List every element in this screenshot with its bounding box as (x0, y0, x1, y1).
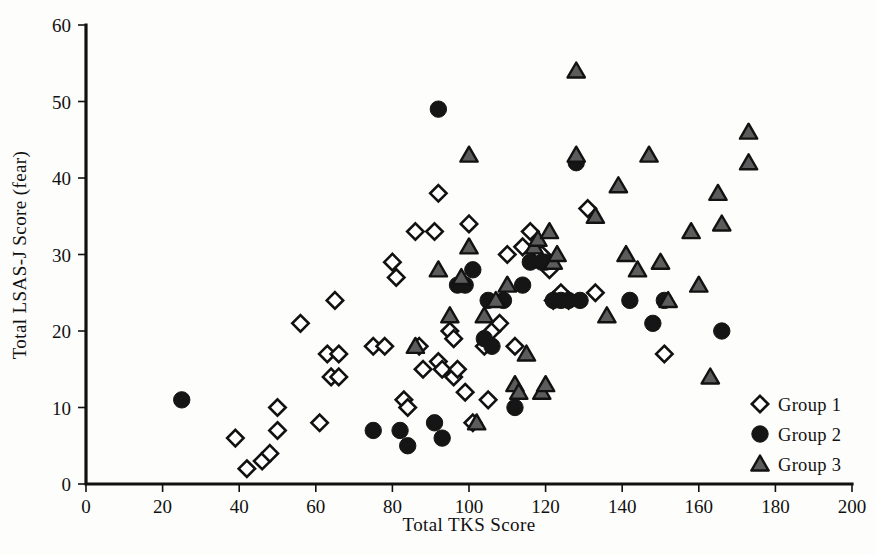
x-tick-label: 60 (306, 496, 325, 517)
scatter-plot-figure: 020406080100120140160180200 010203040506… (0, 0, 876, 555)
y-tick-label: 60 (52, 15, 71, 36)
data-point-group-3 (629, 261, 646, 276)
data-point-group-3 (617, 246, 634, 261)
data-point-group-2 (365, 422, 381, 438)
data-point-group-2 (645, 315, 661, 331)
data-point-group-1 (407, 223, 423, 239)
legend-marker-group-1 (752, 396, 768, 412)
data-point-group-1 (587, 285, 603, 301)
data-point-group-2 (400, 438, 416, 454)
y-tick-label: 10 (52, 398, 71, 419)
data-point-group-2 (434, 430, 450, 446)
data-point-group-1 (461, 216, 477, 232)
x-tick-label: 20 (153, 496, 172, 517)
legend-label-group-2: Group 2 (778, 425, 841, 445)
data-point-group-1 (331, 346, 347, 362)
y-tick-label: 30 (52, 245, 71, 266)
data-point-group-1 (499, 246, 515, 262)
x-tick-label: 80 (383, 496, 402, 517)
data-point-group-1 (426, 223, 442, 239)
data-point-group-3 (537, 376, 554, 391)
data-point-group-3 (610, 177, 627, 192)
data-point-group-2 (426, 415, 442, 431)
x-axis-title: Total TKS Score (402, 514, 535, 535)
data-point-group-3 (441, 307, 458, 322)
legend-marker-group-2 (752, 426, 768, 442)
data-point-group-1 (457, 384, 473, 400)
data-point-group-3 (568, 147, 585, 162)
data-point-group-3 (690, 277, 707, 292)
series-group-1 (227, 185, 672, 477)
data-point-group-1 (430, 185, 446, 201)
data-point-group-1 (377, 338, 393, 354)
data-point-group-3 (740, 154, 757, 169)
data-point-group-3 (541, 223, 558, 238)
data-point-group-1 (415, 361, 431, 377)
data-point-group-1 (292, 315, 308, 331)
data-point-group-3 (652, 254, 669, 269)
data-point-group-1 (227, 430, 243, 446)
data-point-group-3 (568, 63, 585, 78)
data-point-group-2 (514, 277, 530, 293)
data-point-group-2 (507, 399, 523, 415)
legend-label-group-1: Group 1 (778, 395, 841, 415)
data-point-group-3 (702, 369, 719, 384)
data-point-group-1 (327, 292, 343, 308)
data-point-group-1 (311, 415, 327, 431)
data-point-group-3 (460, 147, 477, 162)
y-tick-label: 50 (52, 92, 71, 113)
data-point-group-1 (507, 338, 523, 354)
data-point-group-3 (548, 246, 565, 261)
x-tick-label: 180 (761, 496, 790, 517)
data-point-group-2 (484, 338, 500, 354)
data-point-group-3 (640, 147, 657, 162)
data-point-group-1 (269, 422, 285, 438)
x-tick-label: 140 (608, 496, 637, 517)
y-tick-label: 0 (62, 474, 72, 495)
data-point-group-2 (430, 101, 446, 117)
data-point-group-2 (392, 422, 408, 438)
data-point-group-2 (622, 292, 638, 308)
x-tick-label: 200 (838, 496, 867, 517)
data-point-group-1 (480, 392, 496, 408)
data-point-group-3 (499, 277, 516, 292)
data-point-group-2 (174, 392, 190, 408)
x-tick-label: 0 (81, 496, 91, 517)
data-point-group-2 (714, 323, 730, 339)
x-tick-label: 40 (230, 496, 249, 517)
y-tick-label: 40 (52, 168, 71, 189)
data-point-group-1 (384, 254, 400, 270)
data-point-group-2 (465, 262, 481, 278)
data-point-group-3 (709, 185, 726, 200)
data-points (174, 63, 758, 477)
data-point-group-3 (713, 216, 730, 231)
y-tick-labels: 0102030405060 (52, 15, 71, 495)
data-point-group-3 (460, 238, 477, 253)
y-tick-label: 20 (52, 321, 71, 342)
data-point-group-1 (388, 269, 404, 285)
data-point-group-3 (598, 307, 615, 322)
data-point-group-2 (572, 292, 588, 308)
y-axis-title: Total LSAS-J Score (fear) (9, 151, 31, 360)
legend: Group 1Group 2Group 3 (751, 395, 841, 475)
data-point-group-3 (476, 307, 493, 322)
data-point-group-1 (239, 461, 255, 477)
data-point-group-1 (269, 399, 285, 415)
legend-marker-group-3 (751, 456, 768, 471)
x-tick-label: 120 (531, 496, 560, 517)
legend-label-group-3: Group 3 (778, 455, 841, 475)
data-point-group-3 (430, 261, 447, 276)
data-point-group-1 (656, 346, 672, 362)
data-point-group-3 (683, 223, 700, 238)
data-point-group-3 (740, 124, 757, 139)
plot-canvas: 020406080100120140160180200 010203040506… (0, 0, 876, 555)
x-tick-label: 160 (685, 496, 714, 517)
